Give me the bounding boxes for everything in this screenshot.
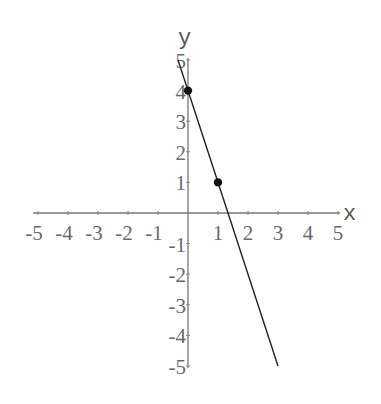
x-axis-label: x	[343, 202, 356, 227]
x-tick-label: 2	[243, 221, 254, 245]
x-tick-label: -1	[145, 221, 163, 245]
x-axis: -5-4-3-2-112345 x	[25, 202, 356, 245]
y-ticks: -5-4-3-2-112345	[169, 49, 191, 379]
y-tick-label: -5	[169, 355, 187, 379]
x-tick-label: -4	[55, 221, 73, 245]
y-tick-label: 1	[176, 171, 187, 195]
x-tick-label: 5	[333, 221, 344, 245]
data-point	[184, 86, 192, 94]
y-axis-label: y	[178, 26, 191, 51]
y-tick-label: 3	[176, 110, 187, 134]
y-tick-label: 2	[176, 141, 187, 165]
x-tick-label: -5	[25, 221, 43, 245]
x-tick-label: 3	[273, 221, 284, 245]
x-tick-label: 4	[303, 221, 314, 245]
y-tick-label: -1	[169, 233, 187, 257]
graph-canvas: -5-4-3-2-112345 x -5-4-3-2-112345 y	[0, 0, 381, 404]
y-tick-label: -3	[169, 294, 187, 318]
y-tick-label: -2	[169, 263, 187, 287]
y-tick-label: -4	[169, 324, 187, 348]
x-tick-label: -2	[115, 221, 133, 245]
x-tick-label: 1	[213, 221, 224, 245]
x-tick-label: -3	[85, 221, 103, 245]
y-axis: -5-4-3-2-112345 y	[169, 26, 192, 379]
data-point	[214, 178, 222, 186]
